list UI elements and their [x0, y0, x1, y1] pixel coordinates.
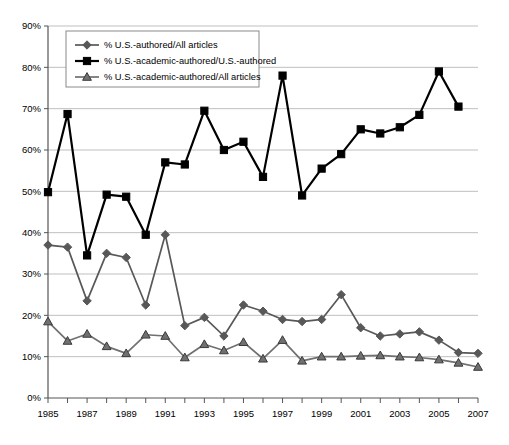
chart-container: 0%10%20%30%40%50%60%70%80%90%19851987198…: [0, 0, 509, 445]
x-axis-tick-label: 1997: [272, 408, 293, 419]
marker-square: [259, 173, 266, 180]
y-axis-tick-label: 50%: [22, 186, 42, 197]
y-axis-tick-label: 90%: [22, 20, 42, 31]
marker-square: [396, 124, 403, 131]
x-axis-tick-label: 1993: [194, 408, 215, 419]
marker-square: [279, 72, 286, 79]
y-axis-tick-label: 30%: [22, 268, 42, 279]
marker-square: [318, 165, 325, 172]
marker-square: [103, 191, 110, 198]
marker-square: [377, 130, 384, 137]
x-axis-tick-label: 1991: [155, 408, 176, 419]
marker-square: [240, 138, 247, 145]
y-axis-tick-label: 10%: [22, 351, 42, 362]
y-axis-tick-label: 70%: [22, 103, 42, 114]
marker-square: [83, 252, 90, 259]
marker-square: [455, 103, 462, 110]
marker-square: [298, 192, 305, 199]
marker-square: [220, 146, 227, 153]
marker-square: [181, 161, 188, 168]
x-axis-tick-label: 1995: [233, 408, 254, 419]
legend-item-label: % U.S.-authored/All articles: [104, 40, 218, 50]
x-axis-tick-label: 1987: [77, 408, 98, 419]
marker-square: [416, 111, 423, 118]
marker-square: [64, 110, 71, 117]
x-axis-tick-label: 1989: [116, 408, 137, 419]
legend-item-label: % U.S.-academic-authored/U.S.-authored: [104, 56, 276, 66]
legend-item-label: % U.S.-academic-authored/All articles: [104, 72, 261, 82]
legend: % U.S.-authored/All articles% U.S.-acade…: [66, 31, 276, 87]
y-axis-tick-label: 40%: [22, 227, 42, 238]
marker-square: [201, 107, 208, 114]
y-axis-tick-label: 80%: [22, 62, 42, 73]
x-axis-tick-label: 1985: [37, 408, 58, 419]
line-chart: 0%10%20%30%40%50%60%70%80%90%19851987198…: [0, 0, 509, 445]
marker-square: [142, 231, 149, 238]
x-axis-tick-label: 2005: [428, 408, 449, 419]
y-axis-tick-label: 60%: [22, 144, 42, 155]
marker-square: [338, 151, 345, 158]
y-axis-tick-label: 20%: [22, 310, 42, 321]
legend-item[interactable]: % U.S.-academic-authored/U.S.-authored: [75, 56, 276, 66]
marker-square: [357, 126, 364, 133]
marker-square: [83, 57, 90, 64]
x-axis-tick-label: 2001: [350, 408, 371, 419]
x-axis-tick-label: 1999: [311, 408, 332, 419]
marker-square: [435, 68, 442, 75]
marker-square: [44, 189, 51, 196]
marker-square: [162, 159, 169, 166]
x-axis-tick-label: 2007: [467, 408, 488, 419]
x-axis-tick-label: 2003: [389, 408, 410, 419]
y-axis-tick-label: 0%: [27, 392, 41, 403]
marker-square: [123, 193, 130, 200]
